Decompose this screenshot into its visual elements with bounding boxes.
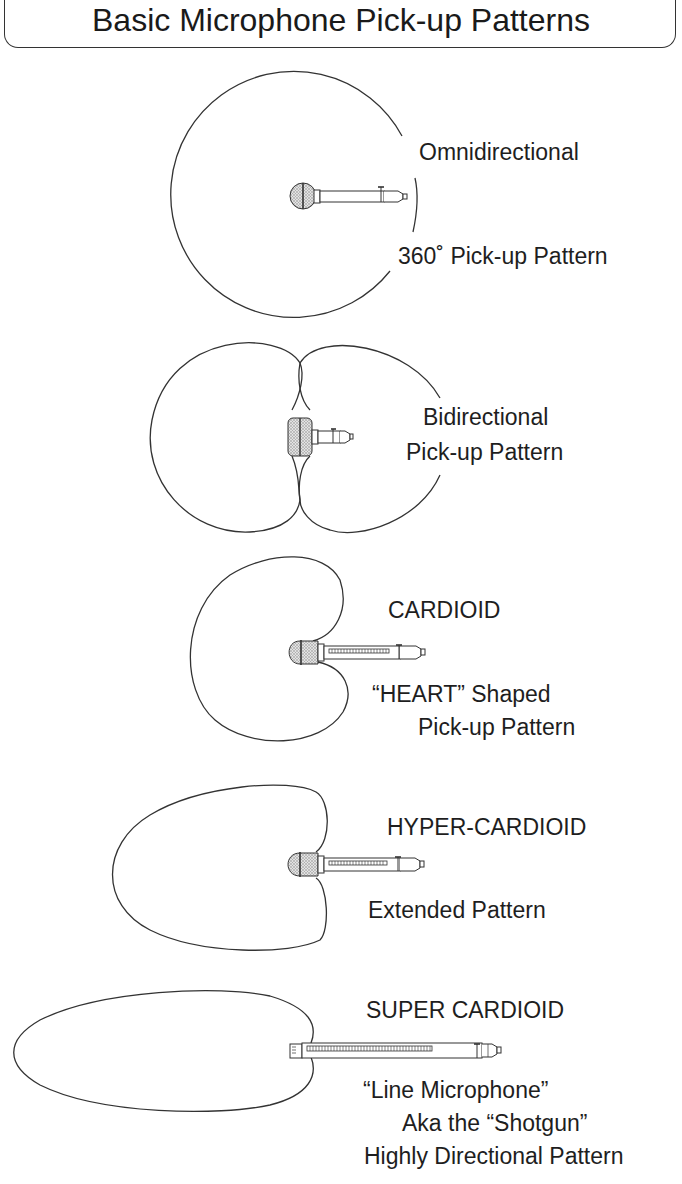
dynamic-microphone-icon [290, 183, 407, 209]
cardioid-sublabel-1: “HEART” Shaped [372, 681, 551, 708]
omnidirectional-sublabel: 360˚ Pick-up Pattern [398, 243, 608, 270]
cardioid-sublabel-2: Pick-up Pattern [418, 714, 575, 741]
bidirectional-label: Bidirectional [423, 404, 548, 431]
bidirectional-sublabel: Pick-up Pattern [406, 439, 563, 466]
hyper-cardioid-microphone-icon [288, 852, 424, 877]
ribbon-microphone-icon [288, 418, 353, 456]
shotgun-microphone-icon [290, 1043, 501, 1058]
pickup-pattern-diagram [0, 0, 682, 1184]
super-cardioid-sublabel-1: “Line Microphone” [363, 1077, 548, 1104]
omnidirectional-label: Omnidirectional [419, 139, 579, 166]
super-cardioid-pattern [14, 991, 314, 1112]
hyper-cardioid-label: HYPER-CARDIOID [387, 814, 586, 841]
super-cardioid-sublabel-2: Aka the “Shotgun” [402, 1110, 587, 1137]
cardioid-microphone-icon [289, 640, 425, 665]
hyper-cardioid-sublabel: Extended Pattern [368, 897, 546, 924]
super-cardioid-label: SUPER CARDIOID [366, 997, 564, 1024]
super-cardioid-sublabel-3: Highly Directional Pattern [364, 1143, 624, 1170]
cardioid-label: CARDIOID [388, 597, 500, 624]
